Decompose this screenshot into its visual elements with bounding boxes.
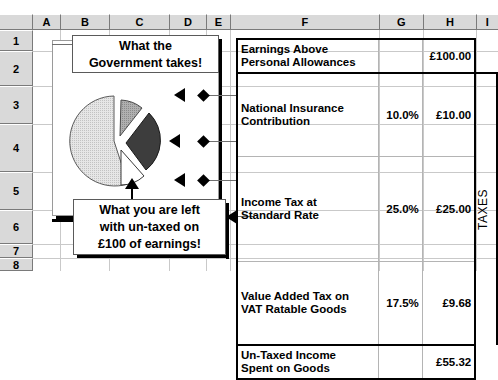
- cell-label-untaxed[interactable]: Un-Taxed Income Spent on Goods: [237, 345, 379, 379]
- callout-top-shadow: [219, 39, 222, 77]
- cell-label-income-tax[interactable]: Income Tax at Standard Rate: [237, 156, 379, 261]
- table-row-earnings[interactable]: Earnings Above Personal Allowances £100.…: [237, 39, 497, 73]
- cell-amount-income-tax[interactable]: £25.00: [422, 156, 475, 261]
- cell-percent-income-tax[interactable]: 25.0%: [379, 156, 423, 261]
- callout-top-line2: Government takes!: [73, 55, 218, 72]
- column-header-g[interactable]: G: [380, 14, 424, 30]
- table-row-vat[interactable]: Value Added Tax on VAT Ratable Goods 17.…: [237, 262, 497, 345]
- table-row-national-insurance[interactable]: National Insurance Contribution 10.0% £1…: [237, 73, 497, 156]
- arrow-to-slice-ni: [174, 88, 185, 102]
- cell-label-untaxed-line2: Spent on Goods: [241, 362, 375, 375]
- cell-spacer-earnings: [475, 39, 497, 73]
- callout-bottom-shadow-b: [77, 255, 229, 258]
- row-header-2[interactable]: 2: [0, 51, 33, 86]
- cell-label-national-insurance[interactable]: National Insurance Contribution: [237, 73, 379, 156]
- column-header-f[interactable]: F: [231, 14, 380, 30]
- arrow-to-slice-untaxed: [125, 178, 139, 189]
- callout-bottom-line3: £100 of earnings!: [74, 236, 225, 253]
- column-header-h[interactable]: H: [424, 14, 477, 30]
- column-header-d[interactable]: D: [170, 14, 207, 30]
- select-all-corner[interactable]: [0, 14, 33, 30]
- column-header-c[interactable]: C: [110, 14, 170, 30]
- table-row-untaxed[interactable]: Un-Taxed Income Spent on Goods £55.32: [237, 345, 497, 379]
- callout-bottom-line2: with un-taxed on: [74, 219, 225, 236]
- window-top-strip: [0, 0, 498, 14]
- arrow-to-slice-incometax: [169, 134, 180, 148]
- column-header-b[interactable]: B: [61, 14, 110, 30]
- table-row-income-tax[interactable]: Income Tax at Standard Rate 25.0% £25.00: [237, 156, 497, 261]
- cell-label-earnings-line1: Earnings Above: [241, 43, 375, 56]
- cell-percent-national-insurance[interactable]: 10.0%: [379, 73, 423, 156]
- cell-amount-national-insurance[interactable]: £10.00: [422, 73, 475, 156]
- cell-amount-untaxed[interactable]: £55.32: [422, 345, 475, 379]
- taxes-group-label-text: TAXES: [476, 74, 490, 345]
- cell-amount-earnings[interactable]: £100.00: [422, 39, 475, 73]
- cell-label-vat-line1: Value Added Tax on: [241, 290, 375, 303]
- row-header-1[interactable]: 1: [0, 30, 33, 51]
- cell-percent-earnings[interactable]: [379, 39, 423, 73]
- tax-breakdown-table: Earnings Above Personal Allowances £100.…: [236, 38, 498, 380]
- row-header-8[interactable]: 8: [0, 258, 33, 271]
- gridline-col-e: [230, 30, 231, 271]
- row-header-7[interactable]: 7: [0, 244, 33, 258]
- row-header-6[interactable]: 6: [0, 210, 33, 244]
- cell-label-incometax-line1: Income Tax at: [241, 196, 375, 209]
- callout-top-line1: What the: [73, 38, 218, 55]
- cell-label-earnings[interactable]: Earnings Above Personal Allowances: [237, 39, 379, 73]
- pie-slice-untaxed[interactable]: [70, 96, 128, 186]
- cell-label-vat[interactable]: Value Added Tax on VAT Ratable Goods: [237, 262, 379, 345]
- callout-bottom-line1: What you are left: [74, 202, 225, 219]
- cell-label-ni-line2: Contribution: [241, 115, 375, 128]
- row-header-5[interactable]: 5: [0, 172, 33, 210]
- column-header-a[interactable]: A: [33, 14, 61, 30]
- callout-government-takes[interactable]: What the Government takes!: [72, 35, 219, 73]
- pie-chart-graphic[interactable]: [66, 88, 170, 192]
- cell-label-earnings-line2: Personal Allowances: [241, 56, 375, 69]
- cell-label-incometax-line2: Standard Rate: [241, 209, 375, 222]
- taxes-group-label: TAXES: [475, 73, 497, 345]
- cell-label-vat-line2: VAT Ratable Goods: [241, 303, 375, 316]
- arrow-to-slice-vat: [174, 173, 185, 187]
- column-header-e[interactable]: E: [207, 14, 231, 30]
- cell-spacer-untaxed: [475, 345, 497, 379]
- cell-percent-vat[interactable]: 17.5%: [379, 262, 423, 345]
- callout-bottom-shadow: [226, 203, 229, 259]
- callout-what-you-are-left-with[interactable]: What you are left with un-taxed on £100 …: [73, 199, 226, 255]
- column-header-i[interactable]: I: [477, 14, 498, 30]
- cell-percent-untaxed[interactable]: [379, 345, 423, 379]
- row-header-4[interactable]: 4: [0, 124, 33, 172]
- row-header-3[interactable]: 3: [0, 86, 33, 124]
- cell-amount-vat[interactable]: £9.68: [422, 262, 475, 345]
- cell-label-untaxed-line1: Un-Taxed Income: [241, 349, 375, 362]
- cell-label-ni-line1: National Insurance: [241, 102, 375, 115]
- connector-line-title: [52, 44, 74, 45]
